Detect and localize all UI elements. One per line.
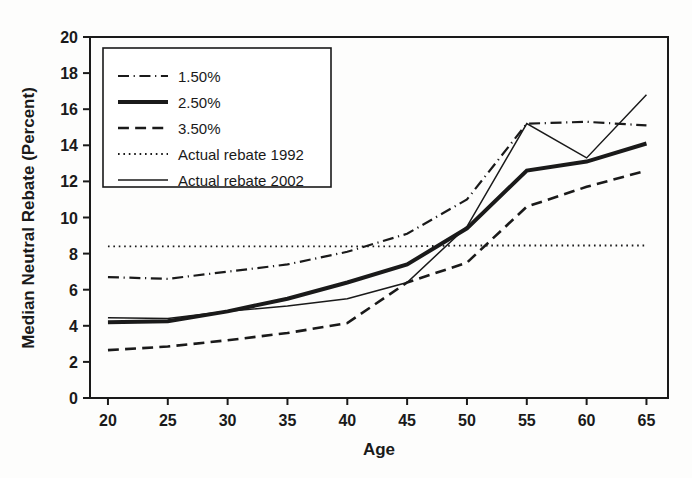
x-tick-label: 65 bbox=[638, 412, 656, 429]
y-axis-title: Median Neutral Rebate (Percent) bbox=[19, 87, 38, 349]
y-tick-label: 10 bbox=[60, 210, 78, 227]
x-tick-label: 60 bbox=[578, 412, 596, 429]
legend-label-4: Actual rebate 1992 bbox=[178, 146, 304, 163]
y-tick-label: 20 bbox=[60, 29, 78, 46]
chart-legend: 1.50%2.50%3.50%Actual rebate 1992Actual … bbox=[103, 48, 331, 189]
legend-label-3: 3.50% bbox=[178, 120, 221, 137]
y-tick-label: 14 bbox=[60, 137, 78, 154]
y-tick-label: 16 bbox=[60, 101, 78, 118]
x-tick-label: 20 bbox=[99, 412, 117, 429]
y-tick-label: 18 bbox=[60, 65, 78, 82]
x-tick-label: 35 bbox=[279, 412, 297, 429]
y-tick-label: 2 bbox=[69, 354, 78, 371]
legend-label-5: Actual rebate 2002 bbox=[178, 172, 304, 189]
y-tick-label: 4 bbox=[69, 318, 78, 335]
y-tick-label: 8 bbox=[69, 246, 78, 263]
x-axis-title: Age bbox=[363, 440, 395, 459]
y-tick-label: 6 bbox=[69, 282, 78, 299]
legend-label-2: 2.50% bbox=[178, 94, 221, 111]
x-tick-label: 55 bbox=[518, 412, 536, 429]
line-chart: 02468101214161820 20253035404550556065 M… bbox=[0, 0, 692, 478]
x-tick-label: 45 bbox=[398, 412, 416, 429]
y-tick-label: 12 bbox=[60, 173, 78, 190]
x-tick-label: 50 bbox=[458, 412, 476, 429]
x-tick-label: 30 bbox=[219, 412, 237, 429]
chart-figure: 02468101214161820 20253035404550556065 M… bbox=[0, 0, 692, 478]
y-tick-label: 0 bbox=[69, 390, 78, 407]
x-tick-label: 25 bbox=[159, 412, 177, 429]
legend-label-1: 1.50% bbox=[178, 68, 221, 85]
x-tick-label: 40 bbox=[338, 412, 356, 429]
